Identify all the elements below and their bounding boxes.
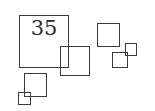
bottom-left-small-square <box>18 92 31 105</box>
overlap-medium-square <box>60 46 90 76</box>
number-label: 35 <box>20 18 68 39</box>
right-small-upper-square <box>125 43 137 56</box>
top-right-square <box>97 23 120 47</box>
